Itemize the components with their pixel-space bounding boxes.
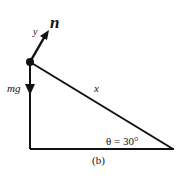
figure-caption: (b) — [92, 154, 105, 167]
angle-label: θ = 30° — [106, 135, 138, 147]
weight-label: mg — [7, 82, 21, 94]
y-axis-label: y — [32, 26, 38, 37]
incline-triangle — [30, 62, 174, 149]
normal-force-label: n — [50, 13, 59, 32]
x-axis-label: x — [93, 82, 99, 94]
weight-arrow-head — [25, 84, 35, 95]
object-dot — [26, 58, 34, 66]
incline-diagram: n y mg x θ = 30° (b) — [0, 0, 181, 180]
